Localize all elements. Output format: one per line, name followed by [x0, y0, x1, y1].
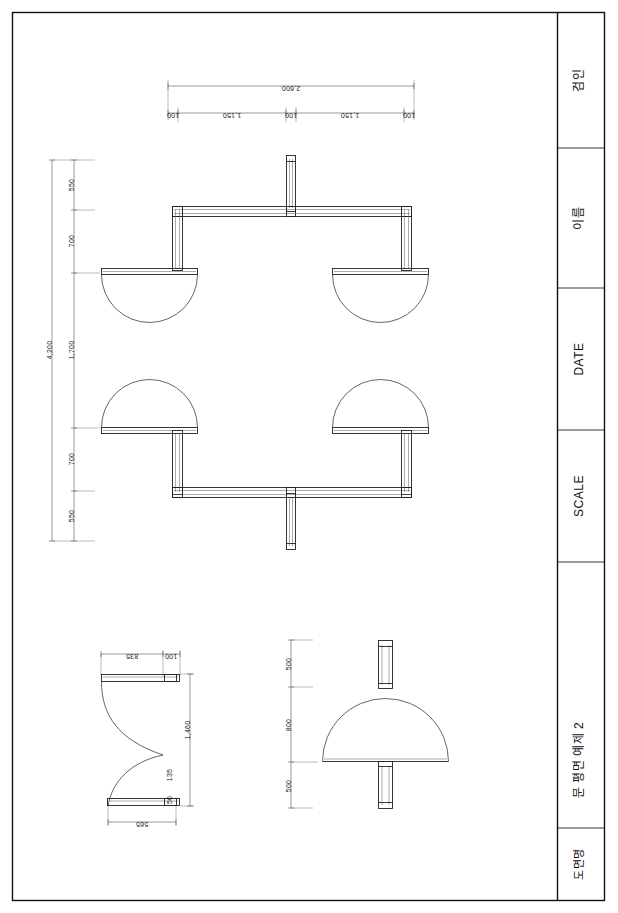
title-block-drawing-title: 문 평면 예제 2: [572, 722, 586, 798]
elevation-dim-2: 800: [285, 719, 292, 731]
detail-dim-top-2: 100: [165, 653, 177, 660]
title-block-scale: SCALE: [572, 475, 586, 517]
plan-dim-seg-1: 100: [167, 112, 179, 119]
elevation-dim-3: 500: [285, 780, 292, 792]
plan-dim-total-width: 2,600: [282, 85, 301, 92]
detail-dim-top-1: 835: [126, 653, 138, 660]
detail-dim-bottom: 565: [136, 821, 148, 828]
title-block-name: 이름: [572, 207, 586, 230]
title-block-date: DATE: [572, 342, 586, 375]
plan-dim-v-seg-5: 550: [68, 510, 75, 522]
title-block-approval: 검인: [572, 69, 586, 92]
plan-dim-seg-5: 100: [403, 112, 415, 119]
detail-dim-inner-2: 50: [166, 796, 173, 804]
detail-dim-inner-1: 135: [166, 769, 173, 781]
plan-dim-v-seg-2: 700: [68, 235, 75, 247]
title-block-drawing-name-header: 도면명: [573, 848, 585, 880]
plan-dim-v-seg-1: 550: [68, 179, 75, 191]
plan-dim-seg-4: 1,150: [341, 112, 360, 119]
plan-dim-seg-2: 1,150: [223, 112, 242, 119]
drawing-text: 2,600 100 1,150 100 1,150 100 4,200 550 …: [0, 0, 618, 913]
plan-dim-v-seg-3: 1,700: [68, 341, 75, 360]
plan-dim-total-height: 4,200: [46, 341, 53, 360]
drawing-sheet: .ln { stroke:#222; fill:none; stroke-wid…: [0, 0, 618, 913]
elevation-dim-1: 500: [285, 658, 292, 670]
plan-dim-v-seg-4: 700: [68, 453, 75, 465]
plan-dim-seg-3: 100: [285, 112, 297, 119]
detail-dim-height: 1,460: [184, 721, 191, 740]
